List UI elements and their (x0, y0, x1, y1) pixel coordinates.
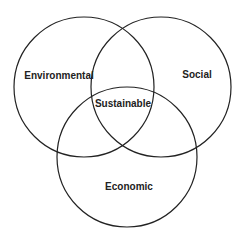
social-circle (91, 17, 231, 157)
venn-diagram: Environmental Social Economic Sustainabl… (0, 0, 242, 234)
environmental-label: Environmental (24, 70, 94, 81)
economic-label: Economic (105, 181, 153, 192)
social-label: Social (182, 69, 212, 80)
sustainable-label: Sustainable (95, 98, 152, 109)
